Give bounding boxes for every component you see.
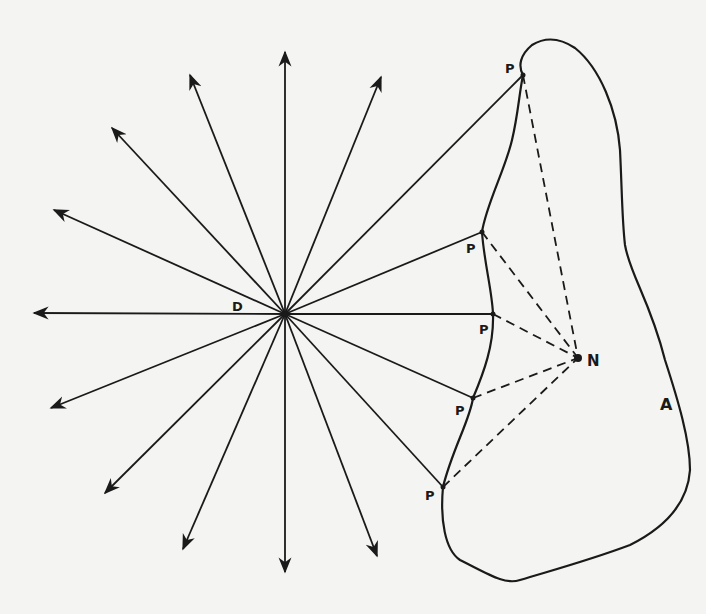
- point-p-label: P: [466, 241, 476, 256]
- dashed-line-p-to-n: [473, 358, 578, 398]
- boundary-rays-group: [285, 75, 523, 487]
- center-point-dot: [282, 311, 288, 317]
- point-p-label: P: [479, 322, 489, 337]
- point-n-dot: [574, 354, 582, 362]
- diagram-svg: PPPPPDNA: [0, 0, 706, 614]
- arrow-ray: [285, 314, 377, 556]
- point-p-dot: [480, 230, 485, 235]
- dashed-line-p-to-n: [493, 314, 578, 358]
- point-n-label: N: [587, 352, 600, 370]
- dashed-lines-group: [443, 75, 578, 487]
- point-p-label: P: [425, 488, 435, 503]
- point-p-label: P: [455, 403, 465, 418]
- point-p-label: P: [505, 61, 515, 76]
- diagram-canvas: PPPPPDNA D N A: [0, 0, 706, 614]
- arrow-ray: [34, 313, 285, 314]
- arrow-ray: [105, 314, 285, 493]
- point-p-dot: [471, 396, 476, 401]
- point-p-dot: [521, 73, 526, 78]
- dashed-line-p-to-n: [443, 358, 578, 487]
- rays-group: [34, 52, 381, 572]
- island-outline: [442, 40, 690, 582]
- dashed-line-p-to-n: [482, 232, 578, 358]
- arrow-ray: [112, 128, 285, 314]
- ray-to-point-p: [285, 314, 443, 487]
- center-label-d: D: [232, 299, 243, 314]
- point-p-dot: [441, 485, 446, 490]
- region-label-a: A: [660, 395, 673, 414]
- point-p-dot: [491, 312, 496, 317]
- ray-to-point-p: [285, 314, 473, 398]
- ray-to-point-p: [285, 232, 482, 314]
- dashed-line-p-to-n: [523, 75, 578, 358]
- arrow-ray: [285, 77, 381, 314]
